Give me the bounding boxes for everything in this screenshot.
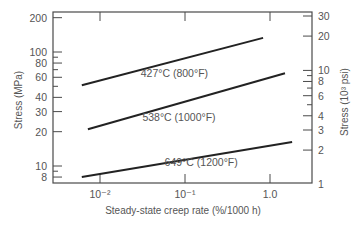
x-tick-label: 10⁻¹ bbox=[174, 188, 196, 200]
creep-rate-chart: 10⁻²10⁻¹1.020010080604030201083020108643… bbox=[0, 0, 361, 228]
y-tick-label-left: 60 bbox=[35, 71, 47, 83]
x-tick-label: 10⁻² bbox=[89, 188, 111, 200]
y-tick-label-right: 8 bbox=[318, 75, 324, 87]
y-axis-title-right: Stress (10³ psi) bbox=[339, 68, 350, 136]
series-label-2: 649°C (1200°F) bbox=[165, 156, 238, 168]
y-tick-label-right: 6 bbox=[318, 90, 324, 102]
y-tick-label-right: 3 bbox=[318, 124, 324, 136]
x-tick-label: 1.0 bbox=[263, 188, 278, 200]
y-tick-label-left: 8 bbox=[41, 171, 47, 183]
x-axis-title: Steady-state creep rate (%/1000 h) bbox=[105, 205, 261, 216]
y-tick-label-left: 80 bbox=[35, 57, 47, 69]
y-tick-label-right: 2 bbox=[318, 144, 324, 156]
y-tick-label-left: 20 bbox=[35, 126, 47, 138]
y-tick-label-left: 200 bbox=[29, 12, 47, 24]
y-tick-label-left: 40 bbox=[35, 91, 47, 103]
y-tick-label-right: 30 bbox=[318, 10, 330, 22]
axis-tick-labels: 10⁻²10⁻¹1.020010080604030201083020108643… bbox=[29, 10, 329, 200]
y-tick-label-right: 20 bbox=[318, 30, 330, 42]
series-label-1: 538°C (1000°F) bbox=[142, 111, 215, 123]
y-tick-label-left: 30 bbox=[35, 106, 47, 118]
series-label-0: 427°C (800°F) bbox=[141, 67, 208, 79]
y-tick-label-right: 4 bbox=[318, 110, 324, 122]
y-axis-title-left: Stress (MPa) bbox=[13, 71, 24, 129]
y-tick-label-right: 1 bbox=[318, 178, 324, 190]
